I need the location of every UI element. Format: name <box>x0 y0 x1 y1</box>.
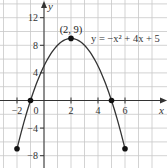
y-tick-label: 8 <box>33 40 38 51</box>
labels: −202461284−4−8yx(2, 9)y = −x² + 4x + 5 <box>12 0 164 161</box>
parabola-plot: −202461284−4−8yx(2, 9)y = −x² + 4x + 5 <box>0 0 167 168</box>
equation-label: y = −x² + 4x + 5 <box>91 33 160 44</box>
x-tick-label: 0 <box>34 105 39 116</box>
axes <box>0 1 167 168</box>
x-axis-label: x <box>158 104 164 116</box>
x-tick-label: −2 <box>12 105 23 116</box>
vertex-label: (2, 9) <box>60 24 83 36</box>
marked-point <box>28 98 34 104</box>
marked-point <box>122 146 128 152</box>
x-tick-label: 2 <box>69 105 74 116</box>
y-tick-label: −8 <box>27 150 38 161</box>
y-tick-label: 12 <box>28 12 38 23</box>
y-tick-label: 4 <box>33 67 38 78</box>
grid <box>0 0 167 168</box>
y-axis-arrow-icon <box>41 1 47 8</box>
x-tick-label: 6 <box>123 105 128 116</box>
marked-point <box>14 146 20 152</box>
y-tick-label: −4 <box>27 123 38 134</box>
x-tick-label: 4 <box>96 105 101 116</box>
y-axis-label: y <box>47 0 53 12</box>
marked-point <box>109 98 115 104</box>
marked-point <box>68 36 74 42</box>
